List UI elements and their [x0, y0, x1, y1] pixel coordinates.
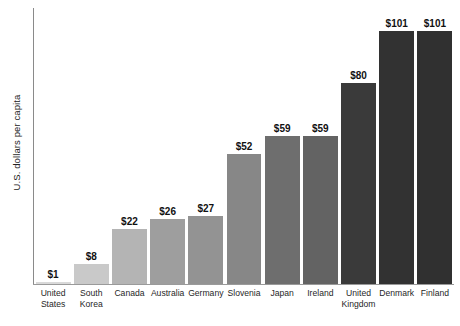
bar: [227, 154, 262, 284]
x-axis-tick-label: Finland: [416, 288, 454, 299]
bar-value-label: $1: [36, 269, 71, 280]
bar: [265, 136, 300, 284]
bar-value-label: $59: [265, 123, 300, 134]
bar-value-label: $80: [341, 70, 376, 81]
x-axis-tick-label: UnitedKingdom: [339, 288, 377, 309]
bar-group: $8: [74, 8, 109, 284]
bar: [74, 264, 109, 284]
x-axis-tick-label: Germany: [187, 288, 225, 299]
x-axis-tick-label: Australia: [149, 288, 187, 299]
bar-group: $101: [379, 8, 414, 284]
bar-group: $26: [150, 8, 185, 284]
bar-chart: U.S. dollars per capita $1$8$22$26$27$52…: [0, 0, 460, 326]
x-axis-tick-label: UnitedStates: [34, 288, 72, 309]
bar-value-label: $59: [303, 123, 338, 134]
y-axis-label-text: U.S. dollars per capita: [11, 94, 22, 190]
y-axis-label: U.S. dollars per capita: [0, 0, 33, 284]
bar: [379, 31, 414, 284]
bar-group: $52: [227, 8, 262, 284]
bar: [303, 136, 338, 284]
bar: [417, 31, 452, 284]
x-axis-line: [33, 284, 454, 285]
bar-group: $59: [303, 8, 338, 284]
x-axis-tick-label: SouthKorea: [72, 288, 110, 309]
bar-value-label: $22: [112, 216, 147, 227]
bar: [112, 229, 147, 284]
bar: [150, 219, 185, 284]
x-axis-category-labels: UnitedStatesSouthKoreaCanadaAustraliaGer…: [34, 288, 454, 322]
x-axis-tick-label: Ireland: [301, 288, 339, 299]
bar: [36, 282, 71, 285]
x-axis-tick-label: Canada: [110, 288, 148, 299]
bar: [341, 83, 376, 284]
bar-group: $22: [112, 8, 147, 284]
bar-group: $101: [417, 8, 452, 284]
bar-group: $1: [36, 8, 71, 284]
x-axis-tick-label: Slovenia: [225, 288, 263, 299]
bar-value-label: $101: [417, 18, 452, 29]
bar: [188, 216, 223, 284]
bar-value-label: $26: [150, 206, 185, 217]
x-axis-tick-label: Denmark: [378, 288, 416, 299]
bar-value-label: $52: [227, 141, 262, 152]
x-axis-tick-label: Japan: [263, 288, 301, 299]
bar-value-label: $27: [188, 203, 223, 214]
plot-area: $1$8$22$26$27$52$59$59$80$101$101: [34, 8, 454, 284]
bar-value-label: $8: [74, 251, 109, 262]
bar-group: $27: [188, 8, 223, 284]
bar-value-label: $101: [379, 18, 414, 29]
bar-group: $80: [341, 8, 376, 284]
bar-group: $59: [265, 8, 300, 284]
